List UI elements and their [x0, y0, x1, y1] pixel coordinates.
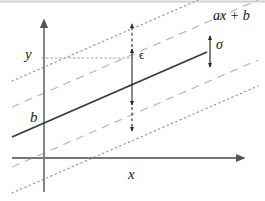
- outer-band-lower-line: [12, 86, 258, 193]
- sigma-label: σ: [216, 38, 223, 52]
- outer-noise-band: [12, 0, 258, 193]
- epsilon-label: ϵ: [139, 48, 144, 61]
- x-axis-label: x: [128, 167, 135, 182]
- y-axis-label: y: [25, 47, 32, 62]
- regression-line-label: ax + b: [213, 9, 250, 23]
- regression-diagram: y x b ax + b σ ϵ: [0, 0, 265, 201]
- inner-band-lower-line: [12, 60, 258, 167]
- intercept-label: b: [30, 110, 38, 125]
